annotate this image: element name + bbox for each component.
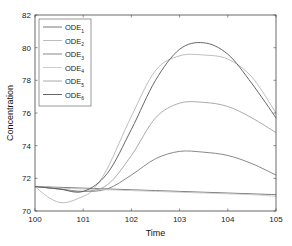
- y-tick-label: 76: [22, 109, 31, 118]
- x-tick-label: 102: [125, 215, 139, 224]
- y-tick-label: 78: [22, 76, 31, 85]
- y-tick-label: 72: [22, 174, 31, 183]
- series-line-ode-3: [35, 151, 276, 191]
- x-tick-label: 101: [77, 215, 91, 224]
- x-tick-label: 103: [173, 215, 187, 224]
- y-tick-label: 70: [22, 207, 31, 216]
- y-tick-label: 82: [22, 11, 31, 20]
- x-axis-label: Time: [146, 228, 166, 238]
- x-tick-label: 100: [28, 215, 42, 224]
- line-chart: 10010110210310410570727476788082 Time Co…: [0, 0, 292, 246]
- legend: ODE1ODE2ODE3ODE4ODE5ODE6: [39, 19, 91, 106]
- y-tick-label: 74: [22, 142, 31, 151]
- series-line-ode-5: [35, 102, 276, 192]
- y-tick-label: 80: [22, 44, 31, 53]
- x-tick-label: 105: [269, 215, 283, 224]
- x-tick-label: 104: [221, 215, 235, 224]
- y-axis-label: Concentration: [5, 85, 15, 141]
